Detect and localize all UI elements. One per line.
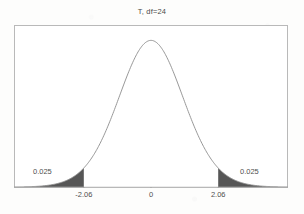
plot-area xyxy=(14,25,288,188)
t-distribution-chart-screenshot: T, df=24 0.025 0.025 -2.06 0 2.06 xyxy=(0,0,304,214)
chart-title: T, df=24 xyxy=(0,7,304,16)
x-tick-label-center: 0 xyxy=(149,190,153,199)
x-tick-label-lower-critical: -2.06 xyxy=(75,190,92,199)
right-tail-probability-label: 0.025 xyxy=(240,167,259,176)
left-tail-probability-label: 0.025 xyxy=(33,167,52,176)
density-curve xyxy=(14,40,288,187)
x-tick-label-upper-critical: 2.06 xyxy=(211,190,226,199)
